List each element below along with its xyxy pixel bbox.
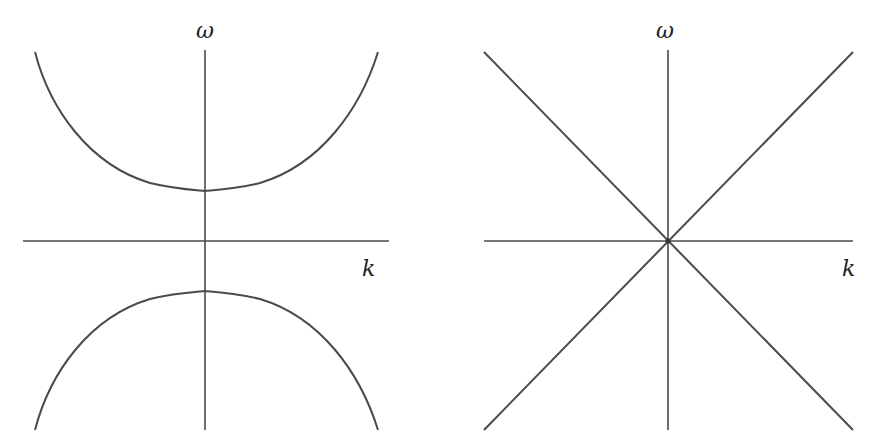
- left-lower-branch: [35, 291, 378, 430]
- right-origin-dot: [666, 239, 671, 244]
- figure-graphics: [0, 0, 877, 447]
- left-k-label: k: [362, 258, 375, 280]
- dispersion-figure: ω k ω k: [0, 0, 877, 447]
- left-panel: [23, 50, 389, 430]
- left-omega-label: ω: [196, 20, 214, 42]
- right-k-label: k: [842, 258, 855, 280]
- right-omega-label: ω: [656, 20, 674, 42]
- left-upper-branch: [35, 52, 378, 191]
- right-panel: [484, 50, 853, 430]
